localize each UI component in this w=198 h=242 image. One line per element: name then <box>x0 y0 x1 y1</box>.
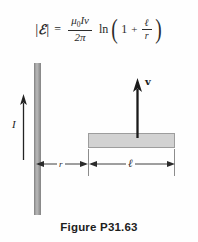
distance-r-label: r <box>57 159 65 169</box>
dimension-lines <box>0 0 198 242</box>
figure-panel: | ℰ | = μ0Iv 2π ln ( 1 + ℓ r ) <box>0 0 198 242</box>
figure-caption: Figure P31.63 <box>0 221 198 233</box>
physics-diagram: I v r ℓ <box>0 0 198 242</box>
length-l-label: ℓ <box>126 157 135 170</box>
